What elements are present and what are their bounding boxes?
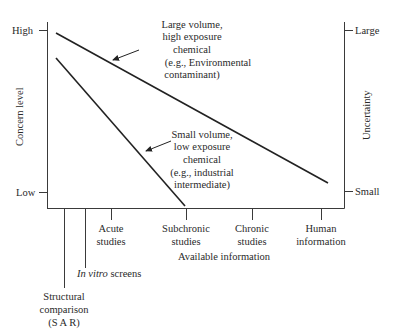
line-small-volume xyxy=(56,58,185,206)
xlabel-sar-1: Structural xyxy=(43,291,84,302)
annot-small-5: intermediate) xyxy=(174,179,230,191)
xlabel-invitro: In vitro screens xyxy=(76,268,141,279)
xlabel-chronic-1: Chronic xyxy=(235,223,269,234)
label-small: Small xyxy=(355,186,380,197)
annot-large-2: high exposure xyxy=(162,31,222,42)
xlabel-acute-2: studies xyxy=(96,236,125,247)
annot-small-4: (e.g., industrial xyxy=(170,167,234,179)
right-axis-title: Uncertainty xyxy=(361,90,372,140)
arrow-small-icon xyxy=(146,141,171,151)
xlabel-sar-3: (S A R) xyxy=(48,317,80,329)
xlabel-invitro-italic: In vitro xyxy=(76,268,108,279)
xlabel-human-1: Human xyxy=(306,223,338,234)
annot-large-5: contaminant) xyxy=(164,69,220,81)
x-axis-title: Available information xyxy=(178,251,271,262)
xlabel-chronic-2: studies xyxy=(237,236,266,247)
annot-small-3: chemical xyxy=(183,154,221,165)
diagram-canvas: High Low Large Small Concern level Uncer… xyxy=(0,0,401,335)
annot-large-4: (e.g., Environmental xyxy=(165,57,251,69)
arrow-large-icon xyxy=(113,50,139,60)
label-large: Large xyxy=(355,25,380,36)
xlabel-acute-1: Acute xyxy=(98,223,123,234)
xlabel-sar-2: comparison xyxy=(40,304,90,315)
xlabel-subchronic-1: Subchronic xyxy=(162,223,210,234)
annot-small-1: Small volume, xyxy=(171,129,232,140)
annot-large-3: chemical xyxy=(173,44,211,55)
annot-large-1: Large volume, xyxy=(161,19,222,30)
label-high: High xyxy=(12,25,34,36)
left-axis-title: Concern level xyxy=(14,87,25,146)
label-low: Low xyxy=(16,187,36,198)
xlabel-human-2: information xyxy=(296,236,346,247)
xlabel-subchronic-2: studies xyxy=(171,236,200,247)
annot-small-2: low exposure xyxy=(174,141,231,152)
xlabel-invitro-rest: screens xyxy=(108,268,142,279)
